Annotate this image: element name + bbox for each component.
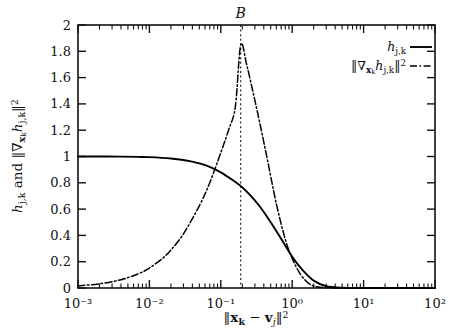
y-tick-label: 2 (63, 18, 71, 33)
x-axis-label: ‖xk − vj‖2 (224, 309, 289, 327)
y-tick-label: 1.6 (50, 70, 71, 85)
y-tick-label: 0.6 (50, 202, 71, 217)
top-annotation-B: B (235, 5, 246, 21)
x-tick-label: 10⁻³ (64, 296, 93, 311)
figure-container: 10⁻³10⁻²10⁻¹10⁰10¹10² 00.20.40.60.811.21… (0, 0, 468, 334)
y-tick-label: 0.2 (50, 254, 71, 269)
y-tick-label: 1.2 (50, 123, 71, 138)
y-tick-label: 0.4 (50, 228, 71, 243)
y-tick-label: 1.8 (50, 44, 71, 59)
x-tick-label: 10¹ (353, 296, 375, 311)
y-tick-label: 0 (63, 281, 71, 296)
y-tick-label: 1 (63, 149, 71, 164)
y-tick-label: 1.4 (50, 96, 71, 111)
x-tick-label: 10² (424, 296, 446, 311)
y-tick-label: 0.8 (50, 175, 71, 190)
chart-canvas: 10⁻³10⁻²10⁻¹10⁰10¹10² 00.20.40.60.811.21… (0, 0, 468, 334)
x-tick-label: 10⁻² (135, 296, 164, 311)
